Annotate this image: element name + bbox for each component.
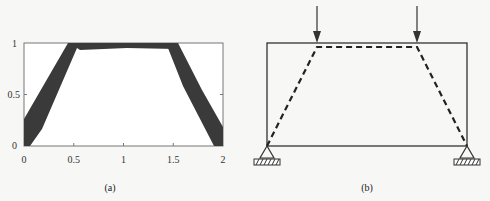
y-tick-0.5: 0.5 [8, 89, 21, 100]
x-tick-1.5: 1.5 [167, 154, 180, 165]
support-right [454, 146, 480, 165]
x-tick-0: 0 [22, 154, 27, 165]
panel-b-diagram: (b) [254, 6, 480, 194]
x-tick-1: 1 [121, 154, 126, 165]
caption-b: (b) [361, 182, 373, 194]
x-tick-2: 2 [221, 154, 226, 165]
panel-a-plot: 0 0.5 1 1.5 2 0 0.5 1 (a) [8, 38, 226, 194]
load-arrow-right [413, 6, 421, 43]
figure: 0 0.5 1 1.5 2 0 0.5 1 (a) [0, 0, 490, 201]
caption-a: (a) [104, 182, 115, 194]
beam-outline [267, 43, 467, 146]
load-arrow-left [313, 6, 321, 43]
y-tick-0: 0 [12, 140, 17, 151]
support-left [254, 146, 280, 165]
load-path-dashed [267, 47, 467, 146]
x-tick-0.5: 0.5 [68, 154, 81, 165]
y-tick-1: 1 [12, 38, 17, 49]
